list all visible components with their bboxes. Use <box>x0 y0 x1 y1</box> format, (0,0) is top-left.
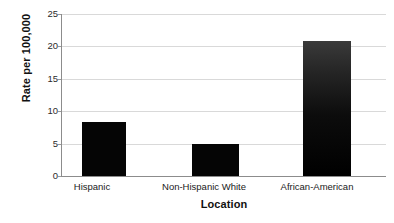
x-axis-title: Location <box>62 198 386 210</box>
y-tick-label-5: 5 <box>36 139 58 149</box>
x-category-label-african-american: African-American <box>266 182 368 192</box>
plot-area <box>62 14 386 176</box>
x-axis-line <box>62 176 386 177</box>
y-tick-label-25: 25 <box>36 9 58 19</box>
y-axis-title: Rate per 100,000 <box>20 0 32 128</box>
y-tick-label-15: 15 <box>36 74 58 84</box>
bar-african-american[interactable] <box>303 41 351 176</box>
bar-non-hispanic-white[interactable] <box>192 144 239 176</box>
y-tick-label-0: 0 <box>36 171 58 181</box>
bar-chart: Rate per 100,000 25 20 15 10 5 0 Hispani… <box>0 0 394 223</box>
y-tick-label-20: 20 <box>36 41 58 51</box>
y-tick-label-10: 10 <box>36 106 58 116</box>
x-category-label-non-hispanic-white: Non-Hispanic White <box>143 182 265 192</box>
bar-hispanic[interactable] <box>82 122 126 176</box>
x-category-label-hispanic: Hispanic <box>52 182 132 192</box>
gridline-25 <box>62 14 386 15</box>
